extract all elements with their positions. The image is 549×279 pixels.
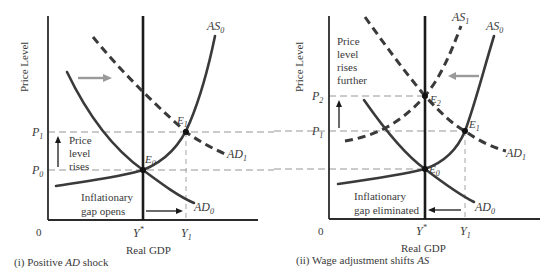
as-shift-arrowhead-icon <box>448 72 456 80</box>
price-note-line-3: rises <box>337 61 357 73</box>
as0-label: AS0 <box>206 19 224 35</box>
e1-label: E1 <box>176 114 188 129</box>
e0-point <box>422 166 428 172</box>
y-star-label: Y* <box>133 225 144 240</box>
gap-note-line-1: Inflationary <box>81 191 133 203</box>
y1-label: Y1 <box>181 226 192 242</box>
y-star-label: Y* <box>416 223 427 238</box>
price-note-line-3: rises <box>69 160 89 172</box>
origin-label: 0 <box>36 226 42 238</box>
ad1-label: AD1 <box>226 147 247 163</box>
p0-label: P0 <box>31 163 43 179</box>
as1-label: AS1 <box>451 10 469 26</box>
e1-point <box>462 128 468 134</box>
as0-label: AS0 <box>485 19 503 35</box>
x-axis-label: Real GDP <box>126 244 171 256</box>
origin-label: 0 <box>318 225 324 237</box>
price-rise-arrowhead-icon <box>55 136 61 143</box>
panel-caption: (ii) Wage adjustment shifts AS <box>296 254 430 267</box>
ad0-curve <box>364 100 474 202</box>
panel-wage-adjustment: Price Level Real GDP 0 Y* Y1 P2 P1 AS0 A… <box>274 10 540 267</box>
e1-point <box>183 129 189 135</box>
y-axis-label: Price Level <box>293 42 305 92</box>
panel-positive-ad-shock: Price Level Real GDP 0 Y* Y1 P1 P0 AS0 A… <box>14 16 274 269</box>
e2-label: E2 <box>429 93 441 108</box>
y1-label: Y1 <box>460 224 471 240</box>
gap-note-line-2: gap eliminated <box>354 204 420 216</box>
panel-caption: (i) Positive AD shock <box>14 256 109 269</box>
p1-label: P1 <box>311 124 323 140</box>
output-gap-arrowhead-icon <box>176 208 183 214</box>
gap-note-line-2: gap opens <box>81 205 125 217</box>
ad0-label: AD0 <box>474 200 495 216</box>
e0-point <box>140 167 146 173</box>
ad-shift-arrowhead-icon <box>103 74 112 82</box>
ad-as-figure: Price Level Real GDP 0 Y* Y1 P1 P0 AS0 A… <box>0 0 549 279</box>
ad0-label: AD0 <box>193 200 214 216</box>
price-rise-arrowhead-icon <box>336 100 342 107</box>
p2-label: P2 <box>311 89 323 105</box>
price-note-line-4: further <box>337 74 367 86</box>
price-note-line-1: Price <box>337 35 360 47</box>
output-gap-arrowhead-icon <box>428 207 435 213</box>
price-note-line-2: level <box>337 48 358 60</box>
price-note-line-2: level <box>69 147 90 159</box>
gap-note-line-1: Inflationary <box>354 190 406 202</box>
e2-point <box>422 93 428 99</box>
price-note-line-1: Price <box>69 134 92 146</box>
p1-label: P1 <box>31 125 43 141</box>
x-axis-label: Real GDP <box>401 242 446 254</box>
e1-label: E1 <box>468 118 480 133</box>
ad1-label: AD1 <box>505 146 526 162</box>
y-axis-label: Price Level <box>18 42 30 92</box>
ad1-curve <box>93 37 225 154</box>
